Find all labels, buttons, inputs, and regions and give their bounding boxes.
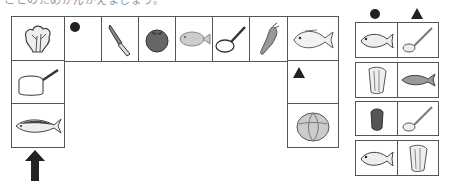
grid-cell-carrot	[249, 16, 288, 62]
triangle-icon	[293, 67, 305, 78]
carrot-icon	[257, 22, 281, 56]
sea-bream-icon	[291, 24, 335, 54]
mackerel-icon	[14, 115, 62, 137]
cabbage-icon	[295, 110, 331, 142]
ladle-icon	[401, 104, 435, 134]
answer-row-4-circle-sea-bream[interactable]	[355, 140, 398, 176]
ladle-icon	[401, 25, 435, 55]
grid-cell-triangle-mark	[287, 60, 339, 105]
saucepan-icon	[16, 66, 60, 98]
flatfish-icon	[177, 28, 211, 50]
answer-header-triangle-icon	[411, 8, 423, 19]
grid-cell-sea-bream	[287, 16, 339, 62]
bell-pepper-icon	[369, 106, 385, 132]
answer-header-circle-icon	[370, 9, 380, 19]
grid-cell-tomato	[138, 16, 176, 62]
frying-pan-icon	[214, 22, 248, 56]
up-arrow-icon	[25, 150, 45, 185]
grid-cell-mackerel	[11, 103, 65, 148]
grid-cell-knife	[101, 16, 139, 62]
grid-cell-spinach	[11, 16, 65, 62]
grid-cell-saucepan	[11, 60, 65, 104]
grid-cell-circle-mark	[64, 16, 102, 62]
instruction-text-partial: ことのためかんがえましょう。	[4, 0, 164, 7]
tomato-icon	[142, 24, 172, 54]
circle-icon	[70, 22, 80, 32]
answer-row-2-circle-lettuce[interactable]	[355, 62, 398, 98]
salmon-icon	[400, 71, 436, 89]
answer-row-4-triangle-lettuce[interactable]	[397, 140, 439, 176]
lettuce-icon	[365, 65, 389, 95]
lettuce-icon	[406, 143, 430, 173]
knife-icon	[105, 21, 135, 57]
grid-cell-flatfish	[175, 16, 213, 62]
answer-row-3-triangle-ladle[interactable]	[397, 101, 439, 136]
answer-row-1-circle-sea-bream[interactable]	[355, 22, 398, 58]
answer-row-1-triangle-ladle[interactable]	[397, 22, 439, 58]
answer-row-3-circle-bell-pepper[interactable]	[355, 101, 398, 136]
grid-cell-frying-pan	[212, 16, 250, 62]
sea-bream-icon	[359, 147, 395, 169]
grid-cell-cabbage	[287, 103, 339, 148]
answer-row-2-triangle-salmon[interactable]	[397, 62, 439, 98]
spinach-icon	[21, 22, 55, 56]
sea-bream-icon	[359, 29, 395, 51]
